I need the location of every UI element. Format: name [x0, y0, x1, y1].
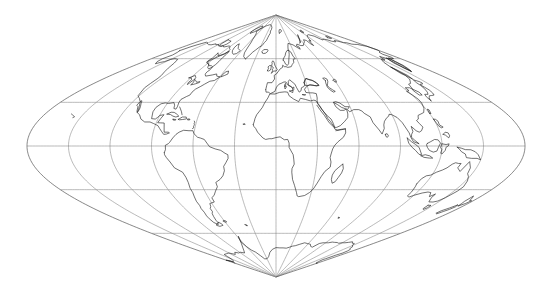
coastline-cape-verde — [243, 124, 245, 125]
world-map-figure — [0, 0, 552, 293]
map-canvas — [0, 0, 552, 293]
